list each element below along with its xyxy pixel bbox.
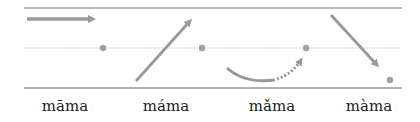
pitch-dot: [199, 45, 205, 51]
dipping-tone-dotted: [277, 60, 301, 79]
pitch-dot: [100, 45, 106, 51]
pitch-dot: [303, 45, 309, 51]
pitch-dot: [387, 77, 393, 83]
tone-4-label: màma: [329, 97, 409, 115]
tone-1-label: māma: [25, 97, 105, 115]
falling-tone-arrow: [331, 15, 377, 65]
rising-tone-arrow: [136, 21, 190, 81]
dipping-tone-curve: [227, 68, 275, 81]
tone-3-label: mǎma: [232, 97, 312, 115]
tone-2-label: máma: [126, 97, 206, 115]
